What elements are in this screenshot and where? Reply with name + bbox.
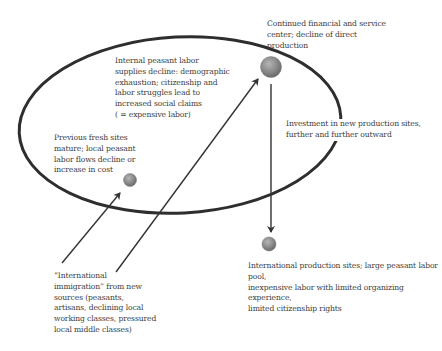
label-international-immigration: “International immigration” from new sou…	[54, 271, 174, 336]
label-previous-fresh-sites: Previous fresh sites mature; local peasa…	[54, 133, 154, 176]
node-center	[261, 57, 282, 78]
arrow-immigration-to-previous	[62, 193, 120, 263]
label-investment-new-sites: Investment in new production sites, furt…	[286, 119, 442, 141]
label-international-production-sites: International production sites; large pe…	[248, 261, 442, 315]
node-international-sites	[262, 237, 276, 251]
label-internal-peasant-labor: Internal peasant labor supplies decline:…	[115, 56, 235, 121]
label-financial-service-center: Continued financial and service center; …	[267, 19, 427, 51]
